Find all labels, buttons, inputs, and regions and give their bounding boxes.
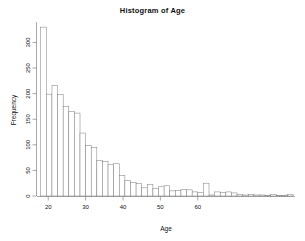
histogram-bar — [265, 195, 271, 196]
histogram-figure: Histogram of Age 2030405060 050100150200… — [0, 0, 305, 241]
histogram-bar — [153, 188, 159, 196]
histogram-bar — [102, 162, 108, 196]
histogram-bar — [63, 106, 69, 196]
histogram-bar — [276, 195, 282, 196]
histogram-bar — [288, 194, 294, 196]
histogram-bar — [220, 192, 226, 196]
y-tick-label: 0 — [25, 194, 31, 198]
x-tick-label: 60 — [194, 204, 201, 210]
histogram-bar — [248, 194, 254, 196]
y-axis-ticks: 050100150200250300 — [25, 37, 37, 198]
histogram-bar — [259, 195, 265, 196]
y-axis-title: Frequency — [10, 94, 18, 125]
histogram-bar — [243, 195, 249, 196]
histogram-bar — [215, 192, 221, 196]
histogram-bar — [108, 165, 114, 196]
y-tick-label: 100 — [25, 139, 31, 150]
x-tick-label: 40 — [120, 204, 127, 210]
histogram-bar — [175, 190, 181, 196]
histogram-bar — [147, 184, 153, 196]
y-tick-label: 200 — [25, 88, 31, 99]
histogram-bar — [181, 189, 187, 196]
histogram-bar — [170, 191, 176, 196]
x-tick-label: 30 — [82, 204, 89, 210]
histogram-bar — [46, 94, 52, 196]
histogram-bar — [198, 192, 204, 196]
histogram-bar — [41, 27, 47, 196]
y-tick-label: 150 — [25, 114, 31, 125]
histogram-bar — [91, 147, 97, 196]
histogram-bar — [97, 161, 103, 196]
plot-canvas: 2030405060 050100150200250300 Age Freque… — [0, 0, 305, 241]
histogram-bar — [80, 133, 86, 196]
histogram-bar — [203, 183, 209, 196]
histogram-bar — [209, 195, 215, 196]
histogram-bar — [58, 95, 64, 196]
histogram-bar — [282, 195, 288, 196]
histogram-bar — [119, 176, 125, 196]
histogram-bar — [159, 187, 165, 196]
histogram-bar — [74, 113, 80, 196]
histogram-bar — [52, 85, 58, 196]
y-tick-label: 300 — [25, 37, 31, 48]
histogram-bar — [192, 192, 198, 196]
histogram-bar — [187, 190, 193, 196]
histogram-bars — [41, 27, 293, 196]
histogram-bar — [231, 193, 237, 196]
y-tick-label: 50 — [25, 166, 31, 173]
histogram-bar — [142, 188, 148, 196]
x-axis-ticks: 2030405060 — [45, 197, 202, 211]
histogram-bar — [164, 186, 170, 196]
x-tick-label: 50 — [157, 204, 164, 210]
x-axis-title: Age — [160, 225, 172, 233]
histogram-bar — [114, 164, 120, 196]
histogram-bar — [226, 192, 232, 196]
histogram-bar — [69, 112, 75, 196]
histogram-bar — [271, 194, 277, 196]
x-tick-label: 20 — [45, 204, 52, 210]
histogram-bar — [254, 195, 260, 196]
histogram-bar — [125, 181, 131, 196]
y-tick-label: 250 — [25, 62, 31, 73]
histogram-bar — [237, 194, 243, 196]
histogram-bar — [136, 184, 142, 196]
histogram-bar — [86, 145, 92, 196]
histogram-bar — [130, 183, 136, 196]
